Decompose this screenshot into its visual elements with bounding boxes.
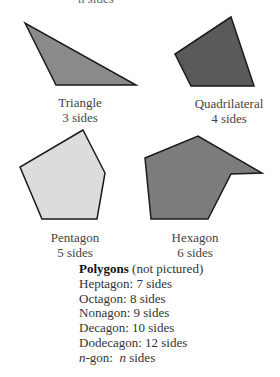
shape-sides: 4 sides — [184, 111, 274, 126]
shape-sides: 6 sides — [160, 245, 230, 260]
list-item: Nonagon: 9 sides — [79, 306, 203, 321]
triangle-shape — [25, 23, 136, 85]
triangle-label: Triangle 3 sides — [45, 95, 115, 125]
polygons-not-pictured-list: Polygons (not pictured) Heptagon: 7 side… — [79, 262, 203, 366]
shape-sides: 5 sides — [40, 245, 110, 260]
list-item-ngon: n-gon: n sides — [79, 351, 203, 366]
quadrilateral-label: Quadrilateral 4 sides — [184, 96, 274, 126]
shape-name: Quadrilateral — [184, 96, 274, 111]
quadrilateral-shape — [175, 17, 254, 86]
list-item: Decagon: 10 sides — [79, 321, 203, 336]
list-item: Heptagon: 7 sides — [79, 277, 203, 292]
shape-name: Hexagon — [160, 230, 230, 245]
pentagon-label: Pentagon 5 sides — [40, 230, 110, 260]
list-heading: Polygons (not pictured) — [79, 262, 203, 277]
hexagon-shape — [145, 136, 262, 219]
shape-name: Triangle — [45, 95, 115, 110]
list-item: Octagon: 8 sides — [79, 292, 203, 307]
pentagon-shape — [20, 130, 105, 219]
shape-sides: 3 sides — [45, 110, 115, 125]
shape-name: Pentagon — [40, 230, 110, 245]
hexagon-label: Hexagon 6 sides — [160, 230, 230, 260]
list-item: Dodecagon: 12 sides — [79, 336, 203, 351]
